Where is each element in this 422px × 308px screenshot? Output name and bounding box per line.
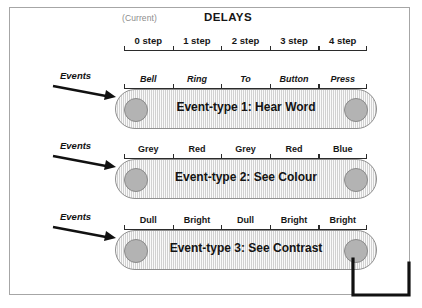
ruler-label: Bright <box>329 215 356 225</box>
ruler-label: 2 step <box>232 35 259 46</box>
ruler-tick <box>124 46 125 51</box>
conveyor-belt-2: Event-type 2: See Colour <box>115 159 377 199</box>
belt-label-3: Event-type 3: See Contrast <box>115 241 377 255</box>
ruler-label: 3 step <box>280 35 307 46</box>
events-arrow-1: Events <box>52 70 120 104</box>
arrow-icon <box>52 221 120 243</box>
conveyor-belt-3: Event-type 3: See Contrast <box>115 230 377 270</box>
event-ruler-1: BellRingToButtonPress <box>124 68 367 89</box>
ruler-label: Red <box>286 144 303 154</box>
ruler-label: Blue <box>333 144 353 154</box>
ruler-label: Dull <box>140 215 157 225</box>
ruler-label: Red <box>188 144 205 154</box>
ruler-label: 1 step <box>183 35 210 46</box>
diagram-frame: (Current) DELAYS 0 step1 step2 step3 ste… <box>9 7 410 295</box>
current-label: (Current) <box>122 13 157 23</box>
event-row-2: Events GreyRedGreyRedBlue Event-type 2: … <box>10 138 409 204</box>
ruler-label: Dull <box>237 215 254 225</box>
ruler-label: Press <box>330 74 355 84</box>
ruler-label: Grey <box>235 144 256 154</box>
event-row-1: Events BellRingToButtonPress Event-type … <box>10 68 409 134</box>
event-ruler-3: DullBrightDullBrightBright <box>124 209 367 230</box>
feedback-bracket-icon <box>351 257 413 301</box>
ruler-tick <box>173 46 174 51</box>
ruler-tick <box>318 46 319 51</box>
belt-label-2: Event-type 2: See Colour <box>115 170 377 184</box>
ruler-label: Bright <box>184 215 211 225</box>
ruler-label: Bell <box>140 74 157 84</box>
ruler-label: Button <box>280 74 309 84</box>
event-ruler-2: GreyRedGreyRedBlue <box>124 138 367 159</box>
ruler-label: Bright <box>281 215 308 225</box>
arrow-icon <box>52 80 120 102</box>
events-arrow-3: Events <box>52 211 120 245</box>
ruler-label: 0 step <box>135 35 162 46</box>
ruler-label: To <box>240 74 251 84</box>
ruler-tick <box>221 46 222 51</box>
event-row-3: Events DullBrightDullBrightBright Event-… <box>10 209 409 275</box>
ruler-axis <box>124 50 367 51</box>
ruler-label: Ring <box>187 74 207 84</box>
ruler-label: Grey <box>138 144 159 154</box>
page-title: DELAYS <box>204 11 252 23</box>
conveyor-belt-1: Event-type 1: Hear Word <box>115 89 377 129</box>
belt-label-1: Event-type 1: Hear Word <box>115 100 377 114</box>
delays-header: (Current) DELAYS 0 step1 step2 step3 ste… <box>10 8 409 66</box>
ruler-label: 4 step <box>329 35 356 46</box>
events-arrow-2: Events <box>52 140 120 174</box>
arrow-icon <box>52 150 120 172</box>
ruler-tick <box>366 46 367 51</box>
delays-ruler: 0 step1 step2 step3 step4 step <box>124 30 367 51</box>
ruler-tick <box>270 46 271 51</box>
